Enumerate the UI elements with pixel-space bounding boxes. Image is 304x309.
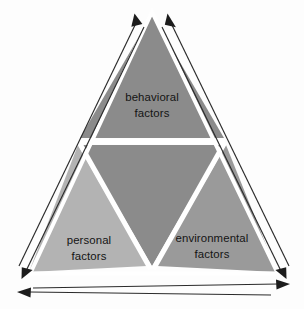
personal-to-environmental-arrow-head	[276, 280, 290, 290]
environmental-to-personal-arrow-shaft	[30, 292, 271, 295]
label-behavioral-line1: behavioral	[125, 91, 179, 103]
bottom-arrow-group	[17, 280, 290, 298]
label-personal-line2: factors	[72, 250, 107, 262]
label-environmental-line1: environmental	[176, 232, 249, 244]
environmental-to-behavioral-arrow-head	[165, 14, 176, 28]
label-personal-line1: personal	[67, 234, 112, 246]
personal-to-behavioral-arrow-head	[131, 14, 142, 27]
environmental-to-personal-arrow-head	[17, 288, 31, 298]
label-environmental-line2: factors	[195, 248, 230, 260]
triadic-reciprocal-determinism-diagram: behavioral factors personal factors envi…	[0, 0, 304, 309]
personal-to-environmental-arrow-shaft	[33, 284, 278, 288]
diagram-canvas: behavioral factors personal factors envi…	[0, 0, 304, 309]
label-behavioral-line2: factors	[135, 107, 170, 119]
